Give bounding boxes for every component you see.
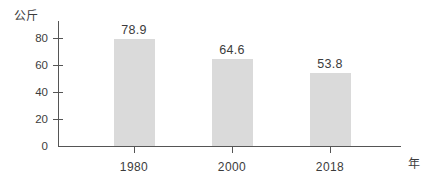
x-tick-label-2018-text: 2018 bbox=[316, 160, 344, 174]
y-tick-label-80: 80 bbox=[8, 32, 48, 44]
bar-chart: 公斤 80 60 40 20 0 78.9 bbox=[0, 0, 437, 185]
x-tick-label-2000-text: 2000 bbox=[218, 160, 246, 174]
y-tick-label-40-text: 40 bbox=[8, 86, 48, 98]
x-tick-mark-1980 bbox=[134, 147, 135, 153]
y-tick-label-40: 40 bbox=[8, 86, 48, 98]
y-tick-label-20-text: 20 bbox=[8, 113, 48, 125]
bar-value-2000: 64.6 bbox=[197, 40, 267, 56]
plot-area: 公斤 80 60 40 20 0 78.9 bbox=[0, 0, 437, 185]
bar-2018 bbox=[310, 73, 351, 146]
bar-value-2018: 53.8 bbox=[295, 54, 365, 70]
bar-2000 bbox=[212, 59, 253, 146]
x-tick-label-1980: 1980 bbox=[99, 157, 169, 171]
y-tick-label-60: 60 bbox=[8, 59, 48, 71]
x-tick-label-1980-text: 1980 bbox=[120, 160, 148, 174]
y-tick-mark-40 bbox=[53, 92, 63, 93]
bar-value-2000-text: 64.6 bbox=[219, 43, 245, 57]
y-tick-label-20: 20 bbox=[8, 113, 48, 125]
bar-1980 bbox=[114, 39, 155, 146]
y-tick-mark-60 bbox=[53, 65, 63, 66]
x-tick-mark-2018 bbox=[330, 147, 331, 153]
x-axis-line bbox=[58, 146, 401, 147]
x-tick-label-2000: 2000 bbox=[197, 157, 267, 171]
y-axis-line bbox=[58, 21, 59, 147]
y-tick-label-0: 0 bbox=[8, 140, 48, 152]
bar-value-2018-text: 53.8 bbox=[317, 57, 343, 71]
y-tick-mark-80 bbox=[53, 38, 63, 39]
y-axis-unit-label: 公斤 bbox=[14, 9, 38, 23]
y-tick-mark-20 bbox=[53, 119, 63, 120]
bar-value-1980: 78.9 bbox=[99, 20, 169, 36]
x-tick-mark-2000 bbox=[232, 147, 233, 153]
y-tick-label-80-text: 80 bbox=[8, 32, 48, 44]
bar-value-1980-text: 78.9 bbox=[121, 23, 147, 37]
y-tick-label-60-text: 60 bbox=[8, 59, 48, 71]
x-tick-label-2018: 2018 bbox=[295, 157, 365, 171]
x-axis-unit-label: 年 bbox=[408, 157, 420, 171]
y-tick-label-0-text: 0 bbox=[8, 140, 48, 152]
